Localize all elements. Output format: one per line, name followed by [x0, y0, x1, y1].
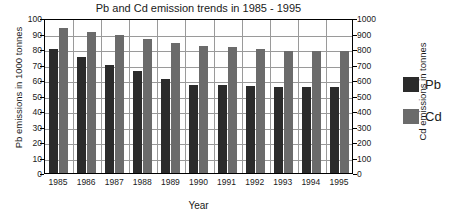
- bar-pb: [218, 85, 227, 173]
- y-tick-right: 0: [357, 170, 389, 178]
- y-tick-right: 100: [357, 155, 389, 163]
- bar-cd: [312, 51, 321, 173]
- tick-mark-right: [353, 174, 357, 175]
- y-tick-right: 200: [357, 139, 389, 147]
- y-tick-right: 400: [357, 108, 389, 116]
- gridline-vertical: [242, 20, 243, 173]
- y-tick-left: 90: [14, 31, 42, 39]
- y-tick-left: 40: [14, 108, 42, 116]
- y-tick-left: 80: [14, 46, 42, 54]
- legend-swatch-icon: [403, 109, 419, 124]
- y-tick-right: 900: [357, 31, 389, 39]
- y-tick-left: 70: [14, 62, 42, 70]
- bar-cd: [199, 46, 208, 173]
- tick-mark-left: [40, 159, 44, 160]
- chart-legend: PbCd: [403, 72, 442, 136]
- x-tick-label: 1990: [184, 178, 212, 187]
- bar-cd: [143, 39, 152, 173]
- x-tick-label: 1988: [128, 178, 156, 187]
- gridline-vertical: [298, 20, 299, 173]
- bar-pb: [77, 57, 86, 173]
- y-tick-left: 20: [14, 139, 42, 147]
- y-tick-left: 50: [14, 93, 42, 101]
- tick-mark-left: [40, 143, 44, 144]
- gridline-vertical: [214, 20, 215, 173]
- tick-mark-right: [353, 19, 357, 20]
- tick-mark-right: [353, 35, 357, 36]
- x-tick-label: 1987: [100, 178, 128, 187]
- tick-mark-left: [40, 112, 44, 113]
- gridline-vertical: [157, 20, 158, 173]
- bar-pb: [189, 85, 198, 173]
- y-tick-left: 30: [14, 124, 42, 132]
- bar-pb: [302, 87, 311, 173]
- gridline-vertical: [101, 20, 102, 173]
- y-tick-right: 700: [357, 62, 389, 70]
- gridline-vertical: [73, 20, 74, 173]
- x-tick-label: 1985: [44, 178, 72, 187]
- x-tick-label: 1991: [213, 178, 241, 187]
- tick-mark-right: [353, 97, 357, 98]
- tick-mark-left: [40, 35, 44, 36]
- bar-pb: [49, 49, 58, 173]
- bar-cd: [59, 28, 68, 173]
- plot-area: [44, 19, 353, 174]
- tick-mark-left: [40, 128, 44, 129]
- x-tick-label: 1995: [325, 178, 353, 187]
- tick-mark-left: [40, 81, 44, 82]
- legend-item-pb[interactable]: Pb: [403, 72, 442, 96]
- x-tick-label: 1986: [72, 178, 100, 187]
- tick-mark-right: [353, 66, 357, 67]
- tick-mark-right: [353, 143, 357, 144]
- gridline-vertical: [129, 20, 130, 173]
- tick-mark-right: [353, 50, 357, 51]
- x-tick-label: 1992: [241, 178, 269, 187]
- x-tick-label: 1993: [269, 178, 297, 187]
- legend-label: Cd: [425, 109, 442, 124]
- y-tick-right: 800: [357, 46, 389, 54]
- gridline-vertical: [326, 20, 327, 173]
- y-tick-right: 1000: [357, 15, 389, 23]
- bar-cd: [256, 49, 265, 173]
- tick-mark-right: [353, 81, 357, 82]
- y-tick-left: 60: [14, 77, 42, 85]
- bar-pb: [105, 65, 114, 174]
- bar-cd: [340, 51, 349, 173]
- y-tick-right: 600: [357, 77, 389, 85]
- tick-mark-right: [353, 112, 357, 113]
- legend-label: Pb: [425, 77, 441, 92]
- bar-cd: [284, 51, 293, 173]
- chart-figure: Pb and Cd emission trends in 1985 - 1995…: [0, 0, 461, 224]
- y-tick-left: 10: [14, 155, 42, 163]
- tick-mark-left: [40, 97, 44, 98]
- bar-pb: [133, 71, 142, 173]
- tick-mark-right: [353, 128, 357, 129]
- legend-swatch-icon: [403, 77, 419, 92]
- gridline-vertical: [185, 20, 186, 173]
- tick-mark-left: [40, 50, 44, 51]
- bar-pb: [246, 86, 255, 173]
- y-tick-left: 100: [14, 15, 42, 23]
- chart-title: Pb and Cd emission trends in 1985 - 1995: [44, 2, 353, 14]
- bar-pb: [274, 87, 283, 173]
- tick-mark-right: [353, 159, 357, 160]
- bar-cd: [87, 32, 96, 173]
- y-tick-right: 300: [357, 124, 389, 132]
- x-tick-label: 1989: [156, 178, 184, 187]
- bar-pb: [330, 87, 339, 173]
- bar-cd: [228, 47, 237, 173]
- tick-mark-left: [40, 174, 44, 175]
- tick-mark-left: [40, 19, 44, 20]
- x-axis-label: Year: [44, 200, 353, 211]
- bar-pb: [161, 79, 170, 173]
- legend-item-cd[interactable]: Cd: [403, 104, 442, 128]
- bar-cd: [171, 43, 180, 173]
- y-tick-left: 0: [14, 170, 42, 178]
- x-tick-label: 1994: [297, 178, 325, 187]
- bar-cd: [115, 35, 124, 173]
- gridline-vertical: [270, 20, 271, 173]
- y-tick-right: 500: [357, 93, 389, 101]
- tick-mark-left: [40, 66, 44, 67]
